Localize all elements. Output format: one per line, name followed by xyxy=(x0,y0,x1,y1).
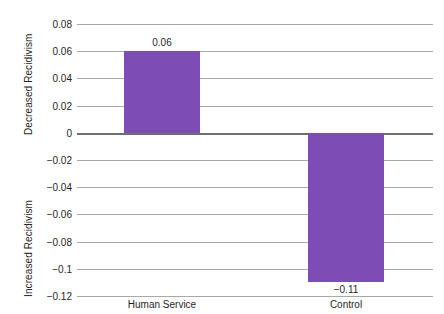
y-tick-label: 0.06 xyxy=(4,46,72,57)
y-tick-label: −0.08 xyxy=(4,236,72,247)
y-tick-label: 0.04 xyxy=(4,73,72,84)
y-tick-label: 0 xyxy=(4,127,72,138)
y-tick-label: 0.02 xyxy=(4,100,72,111)
y-tick-label: −0.1 xyxy=(4,263,72,274)
x-tick-label-control: Control xyxy=(330,299,362,310)
gridline xyxy=(77,24,433,25)
gridline xyxy=(77,296,433,297)
y-axis-tick-labels: 0.08 0.06 0.04 0.02 0 −0.02 −0.04 −0.06 … xyxy=(0,0,72,314)
y-tick-label: −0.02 xyxy=(4,155,72,166)
value-label-human-service: 0.06 xyxy=(152,37,171,48)
value-label-control: −0.11 xyxy=(334,284,359,295)
plot-area xyxy=(77,24,433,296)
y-tick-label: −0.06 xyxy=(4,209,72,220)
y-tick-label: −0.12 xyxy=(4,291,72,302)
y-tick-label: −0.04 xyxy=(4,182,72,193)
y-tick-label: 0.08 xyxy=(4,19,72,30)
bar-control[interactable] xyxy=(308,133,384,283)
bar-human-service[interactable] xyxy=(124,51,200,133)
bar-chart: Decreased Recidivism Increased Recidivis… xyxy=(0,0,444,314)
x-tick-label-human-service: Human Service xyxy=(128,299,196,310)
